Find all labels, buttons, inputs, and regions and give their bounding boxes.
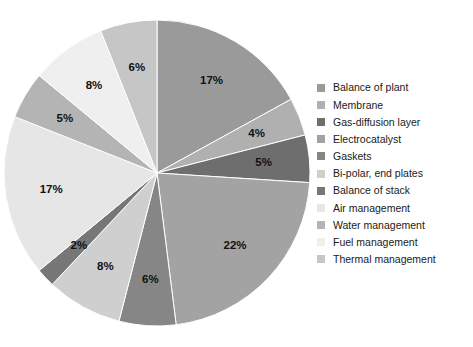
legend-item-label: Gas-diffusion layer	[333, 117, 420, 128]
legend-item[interactable]: Air management	[317, 199, 473, 216]
legend-swatch-icon	[317, 238, 325, 246]
legend-item-label: Balance of plant	[333, 82, 408, 93]
legend-swatch-icon	[317, 118, 325, 126]
legend-item[interactable]: Membrane	[317, 96, 473, 113]
legend-item-label: Air management	[333, 203, 410, 214]
legend-swatch-icon	[317, 255, 325, 263]
pie-slice-value-label: 17%	[40, 183, 63, 195]
legend-item-label: Balance of stack	[333, 185, 410, 196]
legend-item-label: Bi-polar, end plates	[333, 168, 423, 179]
pie-slice-value-label: 4%	[248, 127, 265, 139]
legend-swatch-icon	[317, 187, 325, 195]
legend-swatch-icon	[317, 221, 325, 229]
legend-item[interactable]: Thermal management	[317, 251, 473, 268]
pie-slice-value-label: 17%	[200, 74, 223, 86]
legend-swatch-icon	[317, 152, 325, 160]
legend-item[interactable]: Fuel management	[317, 234, 473, 251]
legend-item[interactable]: Gas-diffusion layer	[317, 113, 473, 130]
pie-chart-figure: 17%4%5%22%6%8%2%17%5%8%6% Balance of pla…	[0, 0, 473, 347]
legend-item[interactable]: Bi-polar, end plates	[317, 165, 473, 182]
legend-swatch-icon	[317, 204, 325, 212]
legend-swatch-icon	[317, 101, 325, 109]
legend: Balance of plantMembraneGas-diffusion la…	[317, 79, 473, 268]
legend-item-label: Fuel management	[333, 237, 418, 248]
legend-item[interactable]: Balance of plant	[317, 79, 473, 96]
legend-item[interactable]: Water management	[317, 217, 473, 234]
legend-item-label: Water management	[333, 220, 425, 231]
legend-swatch-icon	[317, 135, 325, 143]
legend-item[interactable]: Gaskets	[317, 148, 473, 165]
legend-swatch-icon	[317, 170, 325, 178]
legend-item-label: Electrocatalyst	[333, 134, 401, 145]
legend-item-label: Gaskets	[333, 151, 372, 162]
legend-item[interactable]: Balance of stack	[317, 182, 473, 199]
pie-svg: 17%4%5%22%6%8%2%17%5%8%6%	[0, 0, 315, 347]
pie-slice-value-label: 2%	[71, 239, 88, 251]
pie-slice-value-label: 6%	[129, 61, 146, 73]
legend-item-label: Membrane	[333, 100, 383, 111]
pie-chart-area: 17%4%5%22%6%8%2%17%5%8%6%	[0, 0, 315, 347]
pie-slice-value-label: 8%	[86, 79, 103, 91]
legend-swatch-icon	[317, 84, 325, 92]
pie-slice-value-label: 5%	[255, 156, 272, 168]
pie-slice-value-label: 8%	[97, 260, 114, 272]
pie-slice-value-label: 5%	[56, 112, 73, 124]
legend-item[interactable]: Electrocatalyst	[317, 131, 473, 148]
pie-slice-value-label: 22%	[224, 239, 247, 251]
pie-slice-value-label: 6%	[142, 273, 159, 285]
legend-item-label: Thermal management	[333, 254, 436, 265]
